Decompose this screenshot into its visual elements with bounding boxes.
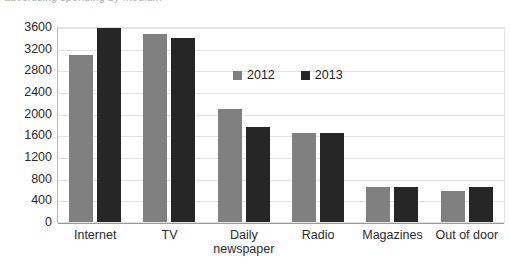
x-axis-label-daily-newspaper: Dailynewspaper [207, 228, 281, 264]
bar-2012-radio[interactable] [292, 133, 316, 222]
y-axis-tick-800: 800 [0, 173, 52, 185]
y-axis-tick-1200: 1200 [0, 151, 52, 163]
chart-title: advertising spending by medium [4, 0, 162, 3]
y-axis-tick-1600: 1600 [0, 129, 52, 141]
x-axis-label-line1: TV [132, 228, 206, 242]
bar-group-internet [58, 27, 132, 222]
bar-2012-daily-newspaper[interactable] [218, 109, 242, 222]
bar-group-out-of-door [430, 27, 504, 222]
x-axis-label-line1: Magazines [355, 228, 429, 242]
bar-group-tv [132, 27, 206, 222]
bar-2013-tv[interactable] [171, 38, 195, 222]
bar-2013-magazines[interactable] [394, 187, 418, 222]
x-axis-label-line1: Radio [281, 228, 355, 242]
bar-chart: advertising spending by medium 360032002… [0, 0, 510, 265]
axis-baseline [58, 223, 504, 224]
x-axis-label-radio: Radio [281, 228, 355, 264]
x-axis-label-line1: Internet [58, 228, 132, 242]
bar-groups [58, 27, 504, 222]
legend-label-2012: 2012 [247, 68, 275, 82]
y-axis-tick-3600: 3600 [0, 21, 52, 33]
x-axis-label-magazines: Magazines [355, 228, 429, 264]
x-axis-category-labels: InternetTVDailynewspaperRadioMagazinesOu… [58, 228, 504, 264]
x-axis-label-internet: Internet [58, 228, 132, 264]
x-axis-label-line1: Out of door [430, 228, 504, 242]
bar-2013-internet[interactable] [97, 28, 121, 222]
x-axis-label-line2: newspaper [207, 242, 281, 256]
x-axis-label-out-of-door: Out of door [430, 228, 504, 264]
legend-label-2013: 2013 [315, 68, 343, 82]
y-axis-tick-3200: 3200 [0, 43, 52, 55]
bar-2012-out-of-door[interactable] [441, 191, 465, 222]
y-axis-tick-2400: 2400 [0, 86, 52, 98]
legend-item-2012[interactable]: 2012 [233, 68, 275, 82]
legend-swatch-2013 [301, 71, 310, 80]
bar-group-daily-newspaper [207, 27, 281, 222]
y-axis-tick-labels: 36003200280024002000160012008004000 [0, 27, 52, 223]
bar-group-radio [281, 27, 355, 222]
x-axis-label-tv: TV [132, 228, 206, 264]
clipped-title-strip: advertising spending by medium [0, 0, 510, 7]
bar-2013-out-of-door[interactable] [469, 187, 493, 222]
chart-legend: 20122013 [233, 68, 343, 82]
legend-swatch-2012 [233, 71, 242, 80]
y-axis-tick-2800: 2800 [0, 64, 52, 76]
bar-2012-magazines[interactable] [366, 187, 390, 222]
y-axis-tick-2000: 2000 [0, 108, 52, 120]
bar-group-magazines [355, 27, 429, 222]
bar-2013-radio[interactable] [320, 133, 344, 222]
bar-2012-tv[interactable] [143, 34, 167, 223]
y-axis-tick-0: 0 [0, 216, 52, 228]
x-axis-label-line1: Daily [207, 228, 281, 242]
bar-2012-internet[interactable] [69, 55, 93, 222]
y-axis-tick-400: 400 [0, 194, 52, 206]
legend-item-2013[interactable]: 2013 [301, 68, 343, 82]
bar-2013-daily-newspaper[interactable] [246, 127, 270, 222]
